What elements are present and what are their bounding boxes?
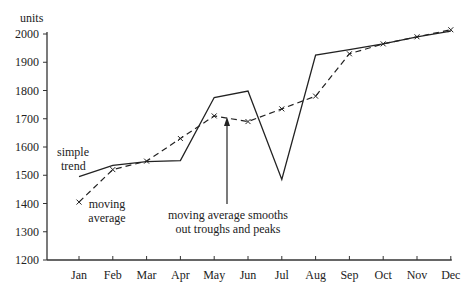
arrow-head-icon [224, 117, 230, 126]
x-tick-label: Nov [407, 268, 428, 282]
x-tick-label: Oct [375, 268, 393, 282]
annotation-simple-trend: trend [61, 159, 86, 173]
y-tick-label: 1700 [15, 112, 39, 126]
y-tick-label: 1200 [15, 253, 39, 267]
y-tick-label: 1300 [15, 225, 39, 239]
x-marker-icon [279, 106, 284, 111]
y-tick-label: 1400 [15, 197, 39, 211]
annotation-simple-trend: simple [57, 145, 89, 159]
y-tick-label: 2000 [15, 27, 39, 41]
x-tick-label: Aug [305, 268, 326, 282]
x-tick-label: Feb [104, 268, 122, 282]
line-chart: units12001300140015001600170018001900200… [0, 0, 463, 293]
x-tick-label: May [203, 268, 225, 282]
x-marker-icon [77, 200, 82, 205]
x-tick-label: Jan [71, 268, 87, 282]
x-marker-icon [313, 94, 318, 99]
y-tick-label: 1900 [15, 55, 39, 69]
annotation-smooths: out troughs and peaks [176, 222, 281, 236]
annotation-moving-average: moving [89, 197, 126, 211]
x-marker-icon [178, 136, 183, 141]
x-tick-label: Jun [240, 268, 257, 282]
y-axis-label: units [20, 11, 44, 25]
y-tick-label: 1500 [15, 168, 39, 182]
x-tick-label: Jul [275, 268, 290, 282]
x-marker-icon [110, 167, 115, 172]
y-tick-label: 1800 [15, 84, 39, 98]
moving-average-line [79, 30, 451, 202]
x-tick-label: Mar [137, 268, 157, 282]
y-tick-label: 1600 [15, 140, 39, 154]
x-tick-label: Dec [441, 268, 460, 282]
x-tick-label: Apr [171, 268, 190, 282]
annotation-smooths: moving average smooths [168, 208, 288, 222]
simple-trend-line [79, 31, 451, 179]
annotation-moving-average: average [88, 211, 125, 225]
x-tick-label: Sep [340, 268, 358, 282]
